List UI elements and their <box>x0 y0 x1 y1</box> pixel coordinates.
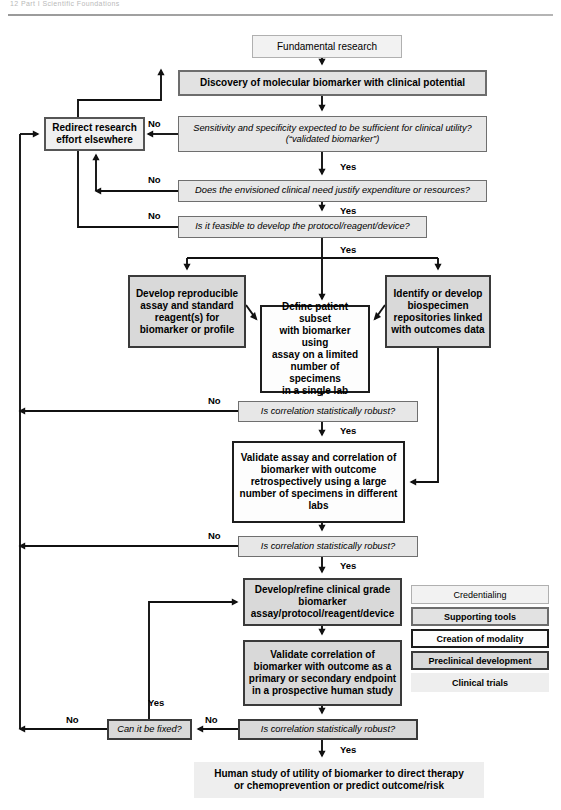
decision-correlation-robust-1-label: Is correlation statistically robust? <box>258 406 398 417</box>
edge-label-yes-corr2: Yes <box>340 560 356 571</box>
decision-correlation-robust-2-label: Is correlation statistically robust? <box>258 541 398 552</box>
legend-item-preclinical: Preclinical development <box>411 651 549 670</box>
node-biospecimen-repositories: Identify or developbiospecimenrepositori… <box>385 275 491 348</box>
edge-bus-to-develop-assay-arrowhead <box>183 264 190 271</box>
edge-validatepro-to-corr3-arrowhead <box>318 708 325 715</box>
edge-label-yes-fixed: Yes <box>148 697 164 708</box>
edge-corr2-yes-refine-arrowhead <box>318 567 325 574</box>
node-validate-correlation-prospective-label: Validate correlation ofbiomarker with ou… <box>246 649 399 697</box>
edge-label-no-need: No <box>148 174 161 185</box>
decision-correlation-robust-2: Is correlation statistically robust? <box>238 536 418 557</box>
node-redirect-research: Redirect researcheffort elsewhere <box>44 117 145 151</box>
edge-sensitivity-no-redirect-arrowhead <box>147 130 154 137</box>
edge-corr1-yes-validate-arrowhead <box>318 430 325 437</box>
edge-discovery-to-sensitivity-arrowhead <box>318 105 325 112</box>
edge-label-yes-need: Yes <box>340 205 356 216</box>
edge-label-yes-corr3: Yes <box>340 744 356 755</box>
node-fundamental-research-label: Fundamental research <box>274 41 380 53</box>
node-define-patient-subset: Define patient subsetwith biomarker usin… <box>260 305 370 393</box>
edge-fixed-yes-up-refine-arrowhead <box>232 598 239 605</box>
edge-refine-to-validate-pro-arrowhead <box>318 629 325 636</box>
flowchart-page: 12 Part I Scientific Foundations Fundame… <box>0 0 561 810</box>
node-validate-correlation-prospective: Validate correlation ofbiomarker with ou… <box>243 640 402 706</box>
edge-need-yes-feasible-arrowhead <box>318 205 325 212</box>
decision-sensitivity-specificity: Sensitivity and specificity expected to … <box>178 116 487 152</box>
edge-sensitivity-yes-need-arrowhead <box>318 169 325 176</box>
node-develop-refine-clinical-grade: Develop/refine clinical gradebiomarkeras… <box>243 578 402 626</box>
edge-validate-to-corr2-arrowhead <box>318 525 325 532</box>
edge-left-rail-into-redirect-arrowhead <box>33 130 40 137</box>
category-legend: CredentialingSupporting toolsCreation of… <box>411 585 549 692</box>
node-discovery-biomarker: Discovery of molecular biomarker with cl… <box>178 70 487 96</box>
legend-item-supporting: Supporting tools <box>411 607 549 626</box>
edge-label-yes-corr1: Yes <box>340 425 356 436</box>
node-define-patient-subset-label: Define patient subsetwith biomarker usin… <box>262 301 368 397</box>
node-discovery-biomarker-label: Discovery of molecular biomarker with cl… <box>197 77 468 89</box>
node-biospecimen-repositories-label: Identify or developbiospecimenrepositori… <box>388 288 487 336</box>
decision-feasible-protocol: Is it feasible to develop the protocol/r… <box>178 216 427 238</box>
decision-sensitivity-specificity-label: Sensitivity and specificity expected to … <box>190 123 475 145</box>
node-redirect-research-label: Redirect researcheffort elsewhere <box>49 122 140 146</box>
decision-correlation-robust-1: Is correlation statistically robust? <box>238 401 418 422</box>
decision-can-it-be-fixed: Can it be fixed? <box>107 719 192 740</box>
legend-item-clinical: Clinical trials <box>411 673 549 692</box>
node-develop-reproducible-assay: Develop reproducibleassay and standardre… <box>128 275 246 348</box>
edge-biospecimen-to-validate-arrowhead <box>410 478 417 485</box>
edge-label-yes-feasible: Yes <box>340 244 356 255</box>
decision-correlation-robust-3: Is correlation statistically robust? <box>238 719 418 740</box>
node-human-study-utility: Human study of utility of biomarker to d… <box>194 762 484 798</box>
legend-item-modality: Creation of modality <box>411 629 549 648</box>
edge-label-no-fixed: No <box>66 714 79 725</box>
edge-label-no-corr3: No <box>205 714 218 725</box>
edge-feasible-no-left-up-arrowhead <box>157 69 164 76</box>
decision-clinical-need-label: Does the envisioned clinical need justif… <box>192 185 473 196</box>
edge-corr3-no-fixed-arrowhead <box>197 725 204 732</box>
decision-correlation-robust-3-label: Is correlation statistically robust? <box>258 724 398 735</box>
node-human-study-utility-label: Human study of utility of biomarker to d… <box>211 768 466 792</box>
legend-item-credentialing: Credentialing <box>411 585 549 604</box>
node-develop-refine-clinical-grade-label: Develop/refine clinical gradebiomarkeras… <box>248 584 397 620</box>
decision-clinical-need: Does the envisioned clinical need justif… <box>178 180 487 202</box>
edge-label-no-corr1: No <box>208 395 221 406</box>
edge-label-yes-sensitivity: Yes <box>340 161 356 172</box>
decision-can-it-be-fixed-label: Can it be fixed? <box>114 724 185 735</box>
edge-fundamental-to-discovery-arrowhead <box>318 59 325 66</box>
decision-feasible-protocol-label: Is it feasible to develop the protocol/r… <box>192 221 412 232</box>
edge-bus-to-define-subset-arrowhead <box>318 294 325 301</box>
edge-label-no-sensitivity: No <box>148 118 161 129</box>
edge-label-no-feasible: No <box>148 210 161 221</box>
node-validate-assay-retrospective-label: Validate assay and correlation ofbiomark… <box>237 452 401 512</box>
node-develop-reproducible-assay-label: Develop reproducibleassay and standardre… <box>133 288 241 336</box>
node-fundamental-research: Fundamental research <box>252 35 402 58</box>
edge-need-no-up-redirect-arrowhead <box>92 154 99 161</box>
edge-label-no-corr2: No <box>208 530 221 541</box>
edge-corr3-yes-human-arrowhead <box>318 751 325 758</box>
edge-bus-to-biospecimen-arrowhead <box>434 264 441 271</box>
node-validate-assay-retrospective: Validate assay and correlation ofbiomark… <box>232 441 405 523</box>
